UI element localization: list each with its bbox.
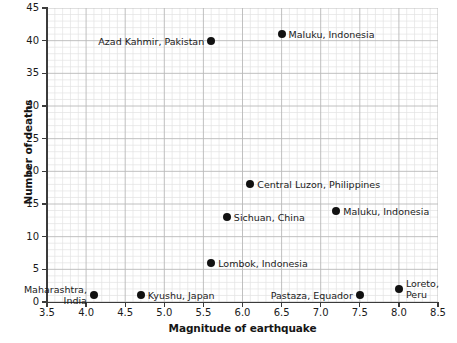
y-tick-mark (42, 105, 47, 106)
point-label-line: Loreto, (406, 278, 439, 289)
data-point[interactable] (278, 30, 286, 38)
point-label-line: Lombok, Indonesia (218, 257, 308, 268)
x-axis-title: Magnitude of earthquake (47, 322, 438, 334)
y-tick-label: 45 (0, 2, 39, 13)
point-label: Azad Kahmir, Pakistan (98, 35, 204, 46)
y-tick-label: 25 (0, 133, 39, 144)
y-tick-label: 5 (0, 263, 39, 274)
y-tick-label: 10 (0, 231, 39, 242)
y-tick-mark (42, 73, 47, 74)
y-tick-label: 20 (0, 165, 39, 176)
x-tick-label: 5.0 (142, 307, 186, 318)
y-tick-label: 15 (0, 198, 39, 209)
x-tick-label: 3.5 (25, 307, 69, 318)
point-label-line: Pastaza, Equador (271, 290, 353, 301)
y-tick-mark (42, 7, 47, 8)
y-tick-mark (42, 203, 47, 204)
data-point[interactable] (332, 207, 340, 215)
y-tick-mark (42, 138, 47, 139)
point-label: Central Luzon, Philippines (257, 179, 380, 190)
point-label: Lombok, Indonesia (218, 257, 308, 268)
scatter-chart: Number of deaths 0510152025303540453.54.… (0, 0, 457, 343)
point-label: Maharashtra,India (24, 284, 87, 306)
x-tick-label: 6.0 (221, 307, 265, 318)
y-tick-label: 40 (0, 35, 39, 46)
data-point[interactable] (395, 285, 403, 293)
y-tick-label: 35 (0, 67, 39, 78)
point-label: Pastaza, Equador (271, 290, 353, 301)
x-tick-label: 4.5 (103, 307, 147, 318)
point-label: Sichuan, China (234, 212, 305, 223)
point-label-line: Kyushu, Japan (148, 290, 215, 301)
x-tick-label: 4.0 (64, 307, 108, 318)
y-tick-mark (42, 269, 47, 270)
point-label-line: Maharashtra, (24, 284, 87, 295)
point-label: Loreto,Peru (406, 278, 439, 300)
y-tick-mark (42, 171, 47, 172)
point-label: Maluku, Indonesia (289, 29, 375, 40)
data-point[interactable] (207, 37, 215, 45)
y-tick-mark (42, 236, 47, 237)
point-label-line: Maluku, Indonesia (289, 29, 375, 40)
point-label-line: Maluku, Indonesia (343, 205, 429, 216)
point-label-line: India (24, 295, 87, 306)
x-tick-label: 7.5 (338, 307, 382, 318)
point-label: Maluku, Indonesia (343, 205, 429, 216)
point-label: Kyushu, Japan (148, 290, 215, 301)
data-point[interactable] (223, 213, 231, 221)
x-tick-label: 6.5 (260, 307, 304, 318)
y-tick-mark (42, 40, 47, 41)
data-point[interactable] (207, 259, 215, 267)
x-tick-label: 8.5 (416, 307, 457, 318)
point-label-line: Peru (406, 289, 439, 300)
y-axis-line (46, 7, 48, 303)
y-tick-label: 30 (0, 100, 39, 111)
point-label-line: Sichuan, China (234, 212, 305, 223)
point-label-line: Azad Kahmir, Pakistan (98, 35, 204, 46)
point-label-line: Central Luzon, Philippines (257, 179, 380, 190)
x-tick-label: 5.5 (181, 307, 225, 318)
x-tick-label: 7.0 (299, 307, 343, 318)
x-tick-label: 8.0 (377, 307, 421, 318)
